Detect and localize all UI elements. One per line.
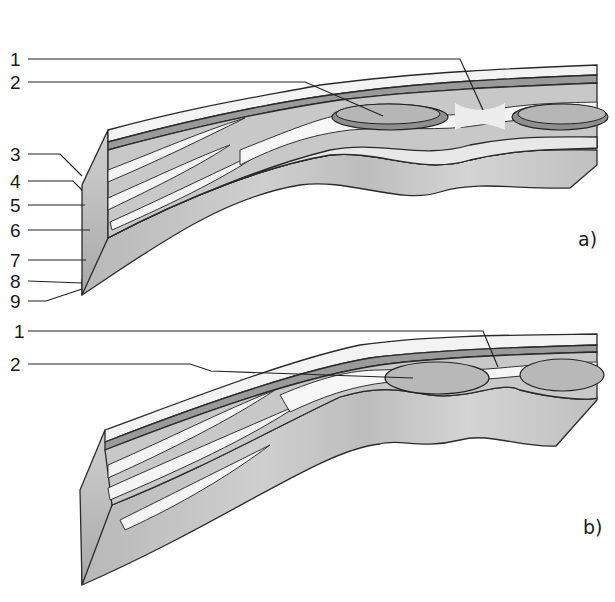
panel-a: 1 2 3 4 5 6 7 8 9 a) [10,49,608,312]
panel-label-a: a) [578,228,597,250]
callout-9: 9 [10,291,21,312]
callout-1-b: 1 [14,321,25,342]
callout-1: 1 [10,49,21,70]
muscle-oval-b2 [520,359,604,391]
muscle-oval-a2-inner [518,104,606,124]
callout-5: 5 [10,195,21,216]
callout-7: 7 [10,250,21,271]
callout-numbers-b: 1 2 [10,321,25,375]
callout-4: 4 [10,171,21,192]
muscle-oval-a1-inner [336,104,440,124]
callout-8: 8 [10,271,21,292]
callout-3: 3 [10,144,21,165]
callout-2-b: 2 [10,354,21,375]
panel-label-b: b) [583,516,602,538]
anatomical-layer-diagram: 1 2 3 4 5 6 7 8 9 a) [0,0,615,602]
callout-6: 6 [10,220,21,241]
callout-numbers-a: 1 2 3 4 5 6 7 8 9 [10,49,21,312]
panel-b: 1 2 b) [10,321,604,585]
callout-2: 2 [10,72,21,93]
